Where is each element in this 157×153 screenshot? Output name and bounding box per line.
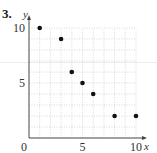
data-point: [59, 37, 64, 42]
y-tick-label: 5: [19, 76, 25, 90]
data-point: [134, 114, 139, 119]
x-tick-label: 10: [130, 140, 142, 153]
x-tick-label: 0: [21, 140, 27, 153]
data-point: [70, 70, 75, 75]
y-tick-label: 10: [13, 21, 25, 35]
data-point: [80, 81, 85, 86]
x-axis-label: x: [143, 140, 149, 152]
data-point: [91, 92, 96, 97]
data-point: [37, 26, 42, 31]
data-point: [112, 114, 117, 119]
x-tick-label: 5: [80, 140, 86, 153]
y-axis-label: y: [22, 8, 28, 20]
scatter-plot: xy0510510: [0, 0, 157, 153]
